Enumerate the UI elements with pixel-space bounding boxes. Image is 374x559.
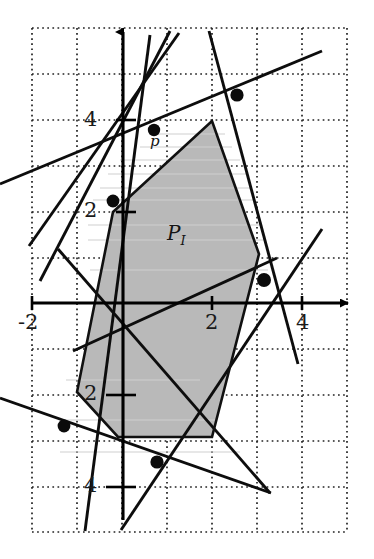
region-label-PI: PI [167,221,186,248]
x-axis-label-pos4: 4 [296,312,309,333]
x-axis-label-neg2: -2 [18,312,38,333]
cut-line-1 [0,51,322,184]
y-axis-label-neg4: 4 [84,475,97,496]
y-axis-label-pos2: 2 [84,200,97,221]
point-bottom [150,455,163,468]
plot-canvas [0,0,374,559]
point-left-two [107,195,120,208]
point-upper-right [230,88,243,101]
point-lower-left [58,420,71,433]
region-label-subscript: I [180,233,185,248]
point-label-p: p [150,132,160,150]
point-right-lower [257,273,271,287]
y-axis-label-neg2: 2 [84,383,97,404]
x-axis-label-pos2: 2 [205,312,218,333]
y-axis-label-pos4: 4 [84,109,97,130]
region-label-text: P [167,221,180,245]
figure-root: -2 2 4 4 2 2 4 PI p [0,0,374,559]
